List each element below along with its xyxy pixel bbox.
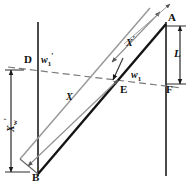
dimension-base-Xw: X — [5, 125, 16, 132]
dimension-label-L: L — [174, 48, 181, 59]
point-label-E: E — [120, 84, 127, 95]
waist-sub-w1: 1 — [138, 75, 142, 83]
point-label-D: D — [24, 54, 32, 65]
waist-base-w1: w — [131, 69, 138, 80]
dimension-label-X-prime: X′ — [126, 36, 135, 48]
waist-base-w1-prime: w — [41, 54, 48, 65]
diagram-canvas — [0, 0, 191, 188]
main-ray-b-a — [38, 24, 166, 174]
waist-sub-w1-prime: 1 — [48, 60, 52, 68]
secondary-ray — [20, 8, 150, 159]
waist-label-w1: w1 — [131, 70, 141, 83]
point-label-F: F — [166, 84, 173, 95]
point-label-A: A — [168, 12, 176, 23]
optical-axis-dashed — [8, 67, 182, 88]
waist-label-w1-prime: w1′ — [41, 53, 53, 68]
waist-prime-w1-prime: ′ — [51, 52, 53, 61]
dimension-label-Xw-prime: Xw′ — [4, 118, 19, 132]
point-label-B: B — [32, 172, 39, 183]
geometry-diagram: A B D E F w1′ w1 L Xw′ X X′ — [0, 0, 191, 188]
dimension-sub-Xw: w — [11, 120, 19, 125]
dimension-base-Xe: X — [126, 37, 133, 48]
dimension-label-X: X — [66, 92, 73, 102]
dimension-prime-Xe: ′ — [133, 35, 135, 44]
dimension-prime-Xw: ′ — [3, 118, 12, 120]
dimension-line-x — [28, 80, 118, 166]
